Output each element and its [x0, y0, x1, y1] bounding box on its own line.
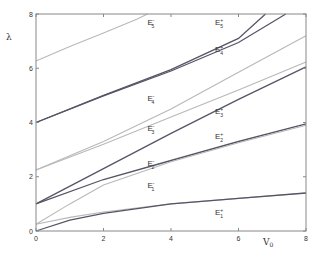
axes-frame — [36, 14, 306, 231]
x-axis-label: V0 — [262, 237, 274, 248]
curve-label-e5plus: E+5 — [215, 17, 223, 29]
y-tick-label: 4 — [29, 119, 33, 126]
y-tick-label: 8 — [29, 11, 33, 18]
eigenvalue-chart: 0246802468 E-5E+5E+4E-4E-3E+3E+2E-2E-1E+… — [0, 0, 319, 256]
curve-e3minus — [36, 62, 306, 170]
curve-label-e4plus: E+4 — [215, 44, 223, 56]
y-axis-label: λ — [6, 32, 12, 42]
x-tick-label: 2 — [102, 235, 106, 242]
curve-label-e2plus: E+2 — [215, 131, 223, 143]
curve-label-e3plus: E+3 — [215, 106, 223, 118]
x-tick-label: 6 — [237, 235, 241, 242]
curve-label-e4minus: E-4 — [147, 93, 154, 105]
y-tick-label: 0 — [29, 228, 33, 235]
curve-label-e3minus: E-3 — [147, 123, 154, 135]
curve-e4minus — [36, 36, 306, 170]
curve-label-e1plus: E+1 — [215, 207, 223, 219]
curve-e5minus — [36, 14, 147, 61]
curves-group — [36, 14, 306, 231]
curve-e1plus — [36, 193, 306, 231]
curve-e5plus — [36, 14, 266, 123]
curve-e1minus — [36, 193, 306, 224]
x-tick-label: 8 — [304, 235, 308, 242]
curve-label-e2minus: E-2 — [147, 158, 154, 170]
curve-label-e5minus: E-5 — [147, 17, 154, 29]
x-tick-label: 0 — [34, 235, 38, 242]
curve-label-e1minus: E-1 — [147, 180, 154, 192]
curve-labels-group: E-5E+5E+4E-4E-3E+3E+2E-2E-1E+1 — [147, 17, 223, 219]
curve-e2minus — [36, 125, 306, 224]
y-tick-label: 2 — [29, 173, 33, 180]
y-tick-label: 6 — [29, 65, 33, 72]
ticks-group: 0246802468 — [29, 11, 308, 243]
x-tick-label: 4 — [169, 235, 173, 242]
